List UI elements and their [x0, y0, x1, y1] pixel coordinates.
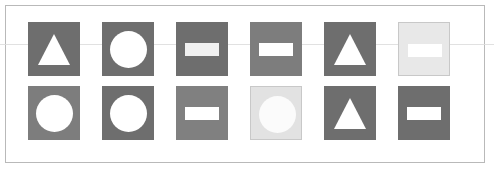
shape-tile[interactable]: [102, 86, 154, 140]
triangle-icon: [334, 34, 366, 65]
shape-tile[interactable]: [324, 22, 376, 76]
triangle-icon: [38, 34, 70, 65]
shape-grid-canvas: [0, 0, 494, 171]
triangle-icon: [334, 98, 366, 129]
shape-tile[interactable]: [398, 86, 450, 140]
circle-icon: [259, 96, 296, 133]
rectangle-icon: [407, 107, 441, 120]
rectangle-icon: [185, 43, 219, 56]
rectangle-icon: [408, 44, 442, 57]
shape-tile[interactable]: [398, 22, 450, 76]
circle-icon: [36, 95, 73, 132]
shape-tile[interactable]: [176, 86, 228, 140]
shape-tile[interactable]: [28, 22, 80, 76]
circle-icon: [110, 95, 147, 132]
shape-tile[interactable]: [102, 22, 154, 76]
rectangle-icon: [259, 43, 293, 56]
circle-icon: [110, 31, 147, 68]
tile-grid: [0, 0, 494, 171]
shape-tile[interactable]: [176, 22, 228, 76]
rectangle-icon: [185, 107, 219, 120]
shape-tile[interactable]: [250, 22, 302, 76]
shape-tile[interactable]: [28, 86, 80, 140]
shape-tile[interactable]: [324, 86, 376, 140]
shape-tile[interactable]: [250, 86, 302, 140]
